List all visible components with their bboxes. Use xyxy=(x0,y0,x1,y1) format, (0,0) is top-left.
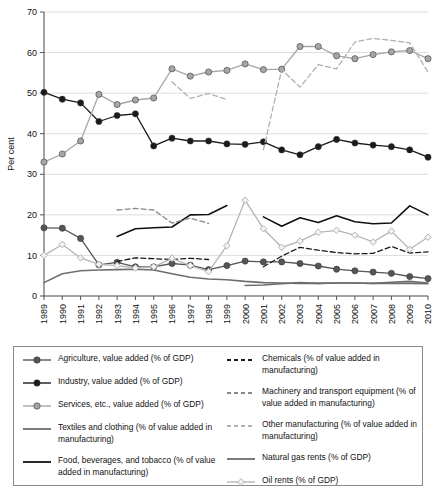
y-tick-label: 40 xyxy=(27,129,37,139)
data-point xyxy=(425,154,431,160)
series-line xyxy=(263,38,428,149)
x-tick-label: 1990 xyxy=(58,304,68,324)
data-point xyxy=(334,136,340,142)
data-point xyxy=(370,52,376,58)
legend-item[interactable]: Industry, value added (% of GDP) xyxy=(22,376,218,389)
legend-item[interactable]: Textiles and clothing (% of value added … xyxy=(22,422,218,445)
data-point xyxy=(388,144,394,150)
series-line xyxy=(117,206,227,237)
data-point xyxy=(59,151,65,157)
data-point xyxy=(315,43,321,49)
y-tick-label: 50 xyxy=(27,88,37,98)
data-point xyxy=(41,159,47,165)
data-point xyxy=(41,225,47,231)
data-point xyxy=(260,259,266,265)
legend-item-label: Industry, value added (% of GDP) xyxy=(58,376,183,388)
x-tick-label: 1989 xyxy=(39,304,49,324)
data-point xyxy=(206,138,212,144)
x-tick-label: 1991 xyxy=(76,304,86,324)
data-point xyxy=(352,140,358,146)
data-point xyxy=(206,69,212,75)
data-point xyxy=(407,147,413,153)
data-point xyxy=(425,276,431,282)
x-tick-label: 2008 xyxy=(387,304,397,324)
data-point xyxy=(41,89,47,95)
data-point xyxy=(370,269,376,275)
x-tick-label: 2009 xyxy=(405,304,415,324)
x-tick-label: 2006 xyxy=(350,304,360,324)
data-point xyxy=(297,152,303,158)
data-point xyxy=(334,53,340,59)
data-point xyxy=(352,268,358,274)
data-point xyxy=(279,147,285,153)
data-point xyxy=(315,144,321,150)
x-tick-label: 2000 xyxy=(241,304,251,324)
x-tick-label: 1998 xyxy=(204,304,214,324)
data-point xyxy=(333,227,340,234)
y-tick-label: 0 xyxy=(32,291,37,301)
x-tick-label: 1999 xyxy=(222,304,232,324)
line-chart-svg: 0102030405060701989199019911992199319941… xyxy=(0,0,437,340)
x-tick-label: 2007 xyxy=(369,304,379,324)
y-tick-label: 30 xyxy=(27,169,37,179)
line-marker-dark-circle-icon xyxy=(22,354,52,366)
data-point xyxy=(260,67,266,73)
line-plain-black-icon xyxy=(22,456,52,468)
chart-legend: Agriculture, value added (% of GDP)Indus… xyxy=(13,346,423,486)
legend-item[interactable]: Agriculture, value added (% of GDP) xyxy=(22,353,218,366)
x-tick-label: 2005 xyxy=(332,304,342,324)
data-point xyxy=(370,142,376,148)
series-6 xyxy=(117,208,209,223)
legend-item[interactable]: Food, beverages, and tobacco (% of value… xyxy=(22,455,218,478)
line-marker-gray-circle-icon xyxy=(22,400,52,412)
chart-figure: 0102030405060701989199019911992199319941… xyxy=(0,0,437,496)
legend-column-left: Agriculture, value added (% of GDP)Indus… xyxy=(22,353,218,481)
data-point xyxy=(151,143,157,149)
series-line xyxy=(117,208,209,223)
legend-item-label: Services, etc., value added (% of GDP) xyxy=(58,399,204,411)
legend-column-right: Chemicals (% of value added in manufactu… xyxy=(226,353,420,481)
legend-item-label: Machinery and transport equipment (% of … xyxy=(262,386,420,409)
line-dashed-gray-icon xyxy=(226,387,256,399)
x-tick-label: 1993 xyxy=(113,304,123,324)
legend-item[interactable]: Machinery and transport equipment (% of … xyxy=(226,386,420,409)
line-plain-gray-icon xyxy=(22,423,52,435)
legend-item[interactable]: Services, etc., value added (% of GDP) xyxy=(22,399,218,412)
y-tick-label: 20 xyxy=(27,210,37,220)
data-point xyxy=(78,100,84,106)
legend-item[interactable]: Chemicals (% of value added in manufactu… xyxy=(226,353,420,376)
data-point xyxy=(114,112,120,118)
data-point xyxy=(315,263,321,269)
data-point xyxy=(78,138,84,144)
data-point xyxy=(407,47,413,53)
legend-item[interactable]: Oil rents (% of GDP) xyxy=(226,475,420,488)
data-point xyxy=(169,255,176,262)
legend-item-label: Chemicals (% of value added in manufactu… xyxy=(262,353,420,376)
legend-item-label: Textiles and clothing (% of value added … xyxy=(58,422,218,445)
x-tick-label: 1997 xyxy=(186,304,196,324)
data-point xyxy=(370,239,377,246)
data-point xyxy=(297,238,304,245)
legend-item[interactable]: Natural gas rents (% of GDP) xyxy=(226,452,420,465)
line-dashed-black-icon xyxy=(226,354,256,366)
legend-item-label: Oil rents (% of GDP) xyxy=(262,475,338,487)
series-line xyxy=(263,206,428,226)
data-point xyxy=(425,56,431,62)
data-point xyxy=(41,252,48,259)
data-point xyxy=(114,101,120,107)
legend-item[interactable]: Other manufacturing (% of value added in… xyxy=(226,419,420,442)
data-point xyxy=(297,260,303,266)
series-line xyxy=(263,247,428,267)
data-point xyxy=(242,61,248,67)
series-5 xyxy=(117,247,428,267)
chart-plot-area: 0102030405060701989199019911992199319941… xyxy=(0,0,437,340)
legend-item-label: Agriculture, value added (% of GDP) xyxy=(58,353,193,365)
legend-item-label: Other manufacturing (% of value added in… xyxy=(262,419,420,442)
x-tick-label: 1996 xyxy=(167,304,177,324)
data-point xyxy=(132,97,138,103)
x-tick-label: 2010 xyxy=(423,304,433,324)
data-point xyxy=(78,235,84,241)
legend-swatch-marker xyxy=(34,380,40,386)
data-point xyxy=(132,111,138,117)
data-point xyxy=(352,232,359,239)
